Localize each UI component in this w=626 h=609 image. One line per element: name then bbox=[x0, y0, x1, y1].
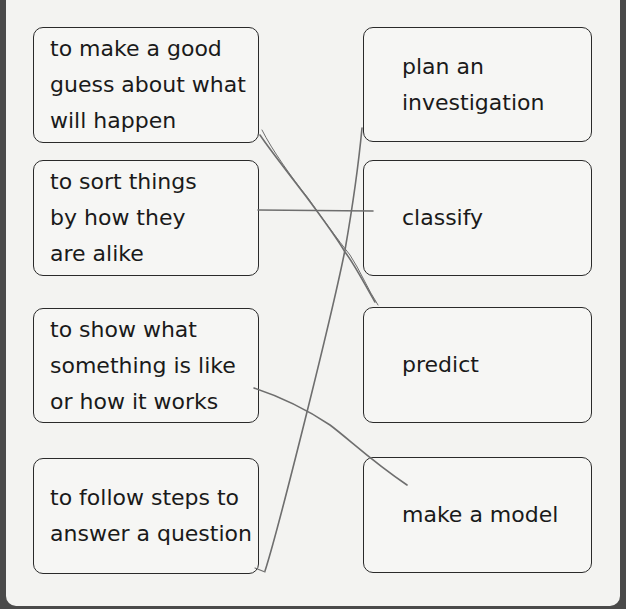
definition-box-investigation[interactable]: to follow steps to answer a question bbox=[33, 458, 259, 574]
definition-box-predict[interactable]: to make a good guess about what will hap… bbox=[33, 27, 259, 143]
definition-text: to sort things by how they are alike bbox=[50, 164, 197, 272]
definition-text: to show what something is like or how it… bbox=[50, 312, 236, 420]
term-box-plan-investigation[interactable]: plan an investigation bbox=[363, 27, 592, 142]
term-text: classify bbox=[402, 200, 483, 236]
definition-text: to follow steps to answer a question bbox=[50, 480, 252, 552]
term-text: predict bbox=[402, 347, 479, 383]
definition-box-classify[interactable]: to sort things by how they are alike bbox=[33, 160, 259, 276]
term-box-make-model[interactable]: make a model bbox=[363, 457, 592, 573]
term-box-predict[interactable]: predict bbox=[363, 307, 592, 423]
definition-box-model[interactable]: to show what something is like or how it… bbox=[33, 308, 259, 423]
term-text: make a model bbox=[402, 497, 558, 533]
term-box-classify[interactable]: classify bbox=[363, 160, 592, 276]
definition-text: to make a good guess about what will hap… bbox=[50, 31, 246, 139]
term-text: plan an investigation bbox=[402, 49, 544, 121]
